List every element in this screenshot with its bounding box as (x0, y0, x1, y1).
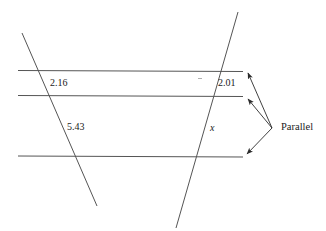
label-lower-right-segment: x (210, 123, 214, 133)
parallel-line-middle (18, 96, 243, 97)
arrow-icon-top (248, 73, 272, 128)
diagram-canvas (0, 0, 326, 231)
label-parallel-annotation: Parallel (281, 122, 313, 133)
arrow-icon-middle (248, 99, 272, 128)
arrow-icon-bottom (247, 128, 272, 154)
transversal-right (176, 12, 238, 228)
label-lower-left-segment: 5.43 (67, 122, 85, 132)
geometry-diagram: 2.16 5.43 2.01 x Parallel (0, 0, 326, 231)
label-upper-left-segment: 2.16 (50, 78, 68, 88)
transversal-left (22, 33, 97, 206)
label-upper-right-segment: 2.01 (218, 78, 236, 88)
parallel-line-bottom (18, 156, 243, 157)
parallel-line-top (18, 71, 243, 72)
